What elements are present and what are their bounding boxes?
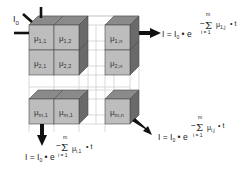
arrow-right-icon xyxy=(139,28,161,38)
svg-text:μi,1: μi,1 xyxy=(72,145,82,154)
svg-text:• t: • t xyxy=(86,143,92,150)
svg-text:• t: • t xyxy=(230,20,236,27)
formula-column-output: I = I0 • e − Σ m i = 1 μi,1 • t xyxy=(25,134,92,163)
svg-text:m: m xyxy=(63,134,67,140)
svg-text:I = I0 • e: I = I0 • e xyxy=(158,132,188,143)
svg-text:m: m xyxy=(206,11,210,17)
svg-text:• t: • t xyxy=(218,122,224,129)
beam-diagonal-icon xyxy=(23,14,32,22)
svg-text:μi,j: μi,j xyxy=(207,124,215,133)
arrow-diagonal-icon xyxy=(132,118,152,135)
svg-text:I = I0 • e: I = I0 • e xyxy=(162,29,192,40)
cube-block-bottom-right xyxy=(105,90,139,124)
svg-text:i = 1: i = 1 xyxy=(58,152,68,158)
voxel-attenuation-diagram: μ1,1 μ1,2 μ1,n μ2,1 μ2,2 μ2,n μm,1 μm,1 … xyxy=(0,0,241,172)
cube-block-bottom-left xyxy=(29,90,88,124)
source-intensity-label: I0 xyxy=(13,14,20,26)
svg-text:m: m xyxy=(198,114,202,120)
svg-text:I = I0 • e: I = I0 • e xyxy=(25,152,55,163)
svg-text:μ1,j: μ1,j xyxy=(216,21,225,30)
arrow-down-icon xyxy=(37,124,47,146)
formula-row-output: I = I0 • e − Σ m i = 1 μ1,j • t xyxy=(162,11,236,40)
svg-text:i = 1: i = 1 xyxy=(193,132,203,138)
svg-text:i = 1: i = 1 xyxy=(201,29,211,35)
formula-diagonal-output: I = I0 • e − Σ m i = 1 μi,j • t xyxy=(158,114,224,143)
